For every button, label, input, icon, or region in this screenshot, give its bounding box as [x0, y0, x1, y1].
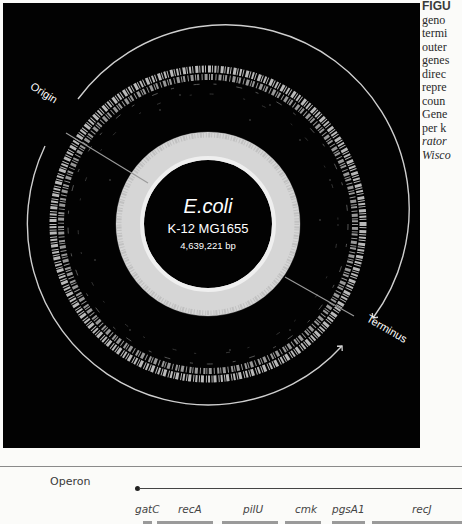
origin-label: Origin — [28, 80, 59, 106]
section-divider — [0, 466, 462, 467]
caption-line: genes — [422, 54, 462, 68]
gene-label-pilu: pilU — [243, 503, 263, 515]
caption-line: outer — [422, 41, 462, 55]
gene-label-reca: recA — [178, 503, 202, 515]
operon-line — [139, 488, 462, 489]
operon-label: Operon — [50, 475, 90, 488]
caption-line: termi — [422, 27, 462, 41]
genome-map-figure: Origin Terminus E.coli K-12 MG1655 4,639… — [3, 3, 420, 448]
caption-line: per k — [422, 122, 462, 136]
gene-label-gatc: gatC — [135, 503, 160, 515]
genome-size: 4,639,221 bp — [180, 240, 235, 251]
caption-line: Wisco — [422, 149, 462, 163]
caption-line: Gene — [422, 108, 462, 122]
caption-line: geno — [422, 14, 462, 28]
caption-line: direc — [422, 68, 462, 82]
genome-name: E.coli — [184, 195, 233, 217]
gene-label-recj: recJ — [412, 503, 432, 515]
gene-label-cmk: cmk — [295, 503, 317, 515]
terminus-label: Terminus — [365, 312, 410, 345]
caption-line: rator — [422, 135, 462, 149]
figure-caption: FIGU geno termi outer genes direc repre … — [422, 0, 462, 162]
strain-name: K-12 MG1655 — [168, 221, 249, 236]
caption-line: repre — [422, 81, 462, 95]
gene-label-pgsa1: pgsA1 — [332, 503, 365, 515]
caption-line: FIGU — [422, 0, 462, 14]
origin-marker-line — [66, 133, 148, 183]
circular-genome-map: Origin Terminus E.coli K-12 MG1655 4,639… — [0, 0, 420, 448]
caption-line: coun — [422, 95, 462, 109]
